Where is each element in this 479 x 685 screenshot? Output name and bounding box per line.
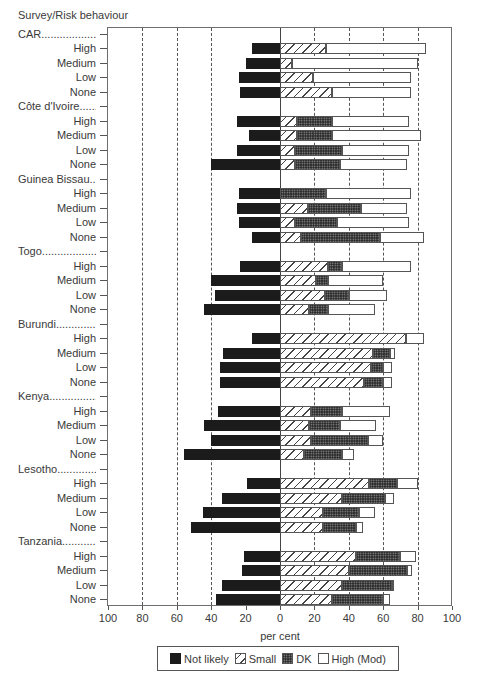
- x-tick-mark: [349, 606, 350, 610]
- bar-not-likely: [222, 580, 280, 591]
- x-tick-label: 100: [443, 612, 461, 624]
- bar-not-likely: [240, 261, 280, 272]
- bar-dk: [308, 203, 361, 214]
- bar-dk: [323, 522, 356, 533]
- y-tick-mark: [100, 556, 107, 557]
- bar-small: [280, 348, 373, 359]
- y-tick-mark: [100, 498, 107, 499]
- bar-not-likely: [237, 116, 280, 127]
- risk-row-label: Medium: [57, 492, 96, 504]
- legend-label: Not likely: [184, 653, 229, 665]
- bar-small: [280, 522, 323, 533]
- bar-small: [280, 507, 323, 518]
- y-tick-mark: [100, 382, 107, 383]
- bar-not-likely: [246, 58, 280, 69]
- bar-dk: [309, 420, 340, 431]
- bar-dk: [280, 188, 326, 199]
- risk-row-label: None: [70, 86, 96, 98]
- y-tick-mark: [100, 454, 107, 455]
- bar-small: [280, 551, 356, 562]
- y-tick-mark: [100, 48, 107, 49]
- x-tick-mark: [314, 606, 315, 610]
- y-tick-mark: [100, 251, 107, 252]
- bar-high-mod: [328, 275, 383, 286]
- risk-row-label: None: [70, 376, 96, 388]
- bar-high-mod: [328, 304, 374, 315]
- risk-row-label: None: [70, 593, 96, 605]
- risk-row-label: Medium: [57, 564, 96, 576]
- x-axis-label: per cent: [260, 630, 300, 642]
- x-tick-label: 0: [277, 612, 283, 624]
- bar-small: [280, 478, 369, 489]
- bar-dk: [295, 159, 340, 170]
- bar-dk: [311, 406, 342, 417]
- bar-not-likely: [220, 362, 280, 373]
- bar-high-mod: [400, 551, 415, 562]
- legend-item-not-likely: Not likely: [170, 653, 229, 665]
- y-tick-mark: [100, 34, 107, 35]
- bar-small: [280, 159, 295, 170]
- survey-group-label: Guinea Bissau..........................: [18, 173, 96, 185]
- survey-group-label: Côte d'Ivoire..........................: [18, 100, 96, 112]
- risk-row-label: Medium: [57, 57, 96, 69]
- bar-small: [280, 203, 308, 214]
- y-tick-mark: [100, 309, 107, 310]
- legend-item-high: High (Mod): [318, 653, 386, 665]
- bar-not-likely: [211, 435, 280, 446]
- risk-row-label: Low: [76, 579, 96, 591]
- small-swatch-icon: [235, 653, 246, 664]
- gridline: [418, 28, 419, 605]
- y-tick-mark: [100, 295, 107, 296]
- bar-not-likely: [239, 217, 280, 228]
- risk-row-label: Medium: [57, 202, 96, 214]
- risk-row-label: High: [73, 42, 96, 54]
- x-tick-mark: [246, 606, 247, 610]
- x-tick-mark: [418, 606, 419, 610]
- x-tick-label: 40: [205, 612, 217, 624]
- bar-small: [280, 116, 297, 127]
- bar-dk: [349, 565, 407, 576]
- bar-not-likely: [249, 130, 280, 141]
- bar-not-likely: [252, 43, 280, 54]
- bar-small: [280, 406, 311, 417]
- bar-high-mod: [383, 377, 392, 388]
- risk-row-label: None: [70, 231, 96, 243]
- bar-small: [280, 130, 297, 141]
- risk-row-label: High: [73, 405, 96, 417]
- bar-high-mod: [337, 217, 409, 228]
- x-tick-mark: [452, 606, 453, 610]
- survey-group-label: Tanzania..........................: [18, 535, 96, 547]
- y-tick-mark: [100, 338, 107, 339]
- y-tick-mark: [100, 483, 107, 484]
- bar-high-mod: [383, 362, 392, 373]
- bar-dk: [332, 594, 384, 605]
- y-axis-title: Survey/Risk behaviour: [18, 9, 128, 21]
- bar-not-likely: [191, 522, 280, 533]
- survey-group-label: Burundi..........................: [18, 318, 96, 330]
- risk-row-label: None: [70, 158, 96, 170]
- y-tick-mark: [100, 599, 107, 600]
- bar-not-likely: [252, 232, 280, 243]
- bar-high-mod: [397, 478, 418, 489]
- bar-small: [280, 493, 342, 504]
- legend-item-small: Small: [235, 653, 277, 665]
- bar-high-mod: [356, 522, 363, 533]
- y-tick-mark: [100, 367, 107, 368]
- bar-not-likely: [244, 551, 280, 562]
- legend-label: High (Mod): [332, 653, 386, 665]
- bar-small: [280, 58, 292, 69]
- bar-small: [280, 87, 332, 98]
- y-tick-mark: [100, 135, 107, 136]
- bar-not-likely: [184, 449, 280, 460]
- risk-row-label: Low: [76, 71, 96, 83]
- bar-not-likely: [211, 159, 280, 170]
- bar-small: [280, 290, 325, 301]
- bar-not-likely: [218, 406, 280, 417]
- survey-group-label: Lesotho..........................: [18, 463, 96, 475]
- bar-not-likely: [237, 203, 280, 214]
- bar-small: [280, 565, 349, 576]
- bar-high-mod: [292, 58, 418, 69]
- not-likely-swatch-icon: [170, 653, 181, 664]
- bar-high-mod: [380, 232, 425, 243]
- risk-row-label: High: [73, 477, 96, 489]
